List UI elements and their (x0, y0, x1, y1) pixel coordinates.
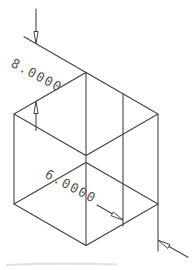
dimension-arrowhead-up (34, 101, 38, 113)
dimension-extension-lines (24, 37, 158, 251)
cad-drawing-canvas: 8.0000 6.0000 (0, 0, 194, 270)
dimension-width-label: 6.0000 (43, 166, 99, 206)
dimension-arrowhead-downright (111, 212, 123, 220)
isometric-drawing: 8.0000 6.0000 (0, 0, 194, 270)
dimension-height-label: 8.0000 (9, 55, 65, 95)
dimension-arrowhead-upleft (158, 240, 170, 248)
box-wireframe-edges (14, 73, 158, 246)
dimension-arrowhead-down (34, 32, 38, 44)
scan-artifact (6, 264, 118, 265)
dimension-width: 6.0000 (43, 166, 188, 257)
